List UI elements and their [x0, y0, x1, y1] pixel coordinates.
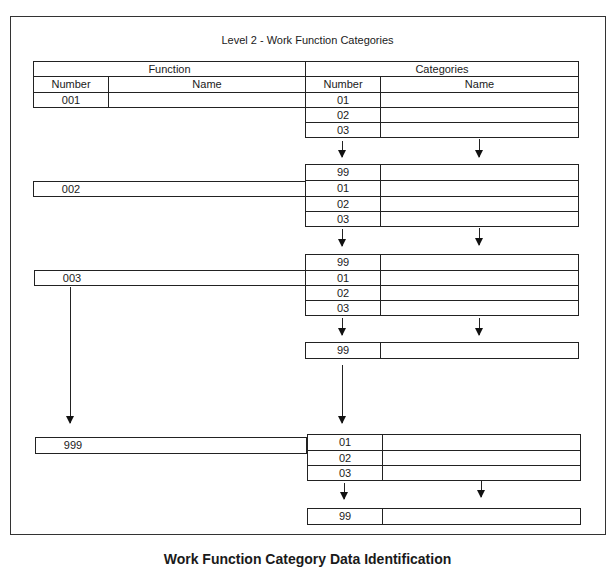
figure-caption: Work Function Category Data Identificati…	[0, 551, 615, 567]
function-name-cell	[108, 92, 306, 108]
category-number-cell: 01	[305, 270, 381, 286]
category-number-cell: 03	[307, 465, 383, 481]
category-number-cell: 99	[307, 508, 383, 525]
category-name-cell	[380, 107, 579, 123]
category-name-cell	[382, 434, 581, 451]
function-number-cell: 003	[34, 270, 110, 286]
header-category-number: Number	[305, 76, 381, 93]
category-name-cell	[380, 254, 579, 271]
header-function-group: Function	[33, 61, 306, 77]
down-arrow-icon	[342, 318, 343, 335]
category-name-cell	[382, 450, 581, 466]
category-number-cell: 03	[305, 300, 381, 316]
category-number-cell: 01	[307, 434, 383, 451]
category-name-cell	[380, 164, 579, 181]
header-category-name: Name	[380, 76, 579, 93]
function-name-cell	[108, 181, 306, 197]
down-arrow-icon	[342, 141, 343, 157]
header-function-name: Name	[108, 76, 306, 93]
category-number-cell: 02	[305, 196, 381, 212]
category-name-cell	[382, 508, 581, 525]
down-arrow-icon	[70, 287, 71, 423]
category-name-cell	[380, 285, 579, 301]
down-arrow-icon	[479, 228, 480, 245]
category-name-cell	[382, 465, 581, 481]
category-number-cell: 99	[305, 164, 381, 181]
category-number-cell: 03	[305, 211, 381, 227]
diagram-title: Level 2 - Work Function Categories	[0, 34, 615, 46]
category-name-cell	[380, 270, 579, 286]
category-name-cell	[380, 122, 579, 138]
category-name-cell	[380, 342, 579, 359]
down-arrow-icon	[479, 139, 480, 157]
function-number-cell: 001	[33, 92, 109, 108]
header-categories-group: Categories	[305, 61, 579, 77]
function-name-cell	[110, 437, 307, 454]
category-name-cell	[380, 196, 579, 212]
header-function-number: Number	[33, 76, 109, 93]
down-arrow-icon	[342, 365, 343, 423]
function-number-cell: 999	[35, 437, 111, 454]
category-name-cell	[380, 211, 579, 227]
category-name-cell	[380, 300, 579, 316]
category-number-cell: 02	[307, 450, 383, 466]
category-number-cell: 01	[305, 92, 381, 108]
category-number-cell: 01	[305, 180, 381, 197]
category-number-cell: 99	[305, 254, 381, 271]
down-arrow-icon	[342, 229, 343, 246]
function-name-cell	[109, 270, 306, 286]
down-arrow-icon	[344, 483, 345, 499]
category-number-cell: 03	[305, 122, 381, 138]
category-name-cell	[380, 180, 579, 197]
down-arrow-icon	[479, 318, 480, 335]
category-name-cell	[380, 92, 579, 108]
down-arrow-icon	[481, 481, 482, 497]
function-number-cell: 002	[33, 181, 109, 197]
category-number-cell: 02	[305, 285, 381, 301]
category-number-cell: 02	[305, 107, 381, 123]
category-number-cell: 99	[305, 342, 381, 359]
